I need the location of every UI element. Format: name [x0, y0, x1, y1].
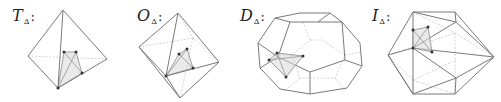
vertex-point	[57, 87, 60, 90]
outline-edge	[388, 12, 494, 94]
vertex-point	[431, 51, 434, 54]
vertex-point	[412, 29, 415, 32]
vertex-point	[81, 72, 84, 75]
hidden-edge	[193, 38, 219, 62]
vertex-point	[186, 48, 189, 51]
tetrahedron-figure	[28, 10, 107, 90]
vertex-point	[268, 59, 271, 62]
vertex-point	[285, 76, 288, 79]
fundamental-simplex	[58, 52, 82, 88]
vertex-point	[178, 53, 181, 56]
edge	[28, 56, 58, 88]
vertex-point	[75, 51, 78, 54]
vertex-point	[165, 75, 168, 78]
dodecahedron-figure	[258, 13, 362, 94]
hidden-edge	[388, 55, 413, 80]
edge	[388, 55, 413, 94]
icosahedron-figure	[388, 12, 494, 94]
edge	[413, 12, 456, 22]
edge	[28, 10, 63, 56]
edge	[413, 78, 456, 94]
vertex-point	[63, 51, 66, 54]
vertex-point	[302, 55, 305, 58]
polyhedra-diagram	[0, 0, 501, 102]
octahedron-figure	[139, 13, 219, 98]
vertex-point	[192, 67, 195, 70]
edge	[278, 22, 290, 57]
vertex-point	[412, 47, 415, 50]
hidden-edge	[178, 13, 193, 38]
edge	[342, 22, 345, 60]
edge	[345, 60, 362, 66]
hidden-edge	[345, 52, 362, 55]
vertex-point	[427, 26, 430, 29]
edge	[275, 13, 330, 22]
vertex-point	[276, 52, 279, 55]
edge	[166, 76, 180, 98]
edge	[456, 22, 494, 57]
